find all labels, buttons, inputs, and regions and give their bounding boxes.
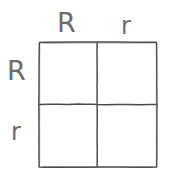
grid-sketch-texture-bottom — [44, 166, 154, 167]
punnett-square-figure: R r R r — [0, 0, 169, 174]
punnett-cell-row2-col2[interactable] — [98, 106, 156, 166]
punnett-cell-row1-col2[interactable] — [98, 43, 156, 103]
grid-horizontal-divider — [39, 104, 157, 105]
punnett-cell-row2-col1[interactable] — [40, 106, 96, 166]
punnett-cell-row1-col1[interactable] — [40, 43, 96, 103]
